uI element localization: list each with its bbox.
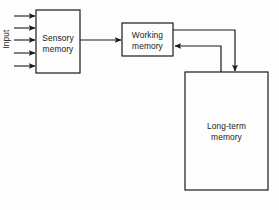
longterm-memory-box <box>185 72 268 190</box>
connector-working-to-longterm <box>173 30 235 71</box>
connector-longterm-to-working <box>175 46 221 72</box>
sensory-memory-box <box>36 10 80 73</box>
working-memory-box <box>122 23 173 56</box>
diagram-canvas: Input Sensory memory Working memory Long… <box>0 0 279 210</box>
input-arrows-group <box>14 16 35 66</box>
diagram-graphics <box>0 0 279 210</box>
